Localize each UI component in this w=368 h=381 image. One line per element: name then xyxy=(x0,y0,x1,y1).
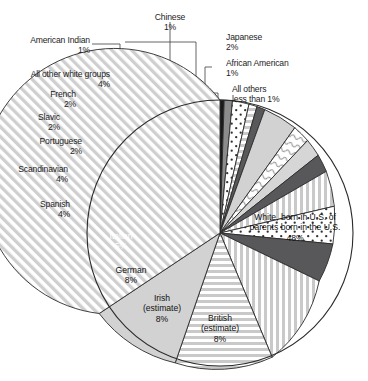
pie-chart-figure: Chinese 1% Japanese 2% African American … xyxy=(0,0,368,381)
callout-scandinavian-name: Scandinavian xyxy=(0,164,68,174)
inside-label-irish: Irish (estimate) 8% xyxy=(126,293,198,324)
callout-all-others-percent: less than 1% xyxy=(232,94,279,104)
inside-label-british-line2: (estimate) xyxy=(201,323,239,333)
callout-chinese-name: Chinese xyxy=(138,12,202,22)
inside-label-italian-name: Italian xyxy=(110,231,133,241)
inside-label-german-percent: 8% xyxy=(125,275,137,285)
inside-label-british-line1: British xyxy=(208,313,232,323)
callout-japanese: Japanese 2% xyxy=(226,32,262,52)
inside-label-british-percent: 8% xyxy=(214,334,226,344)
callout-spanish-name: Spanish xyxy=(0,199,70,209)
callout-african-american: African American 1% xyxy=(226,58,289,78)
callout-slavic-name: Slavic xyxy=(0,112,60,122)
callout-french: French 2% xyxy=(0,89,76,109)
callout-japanese-name: Japanese xyxy=(226,32,262,42)
inside-label-irish-percent: 8% xyxy=(156,314,168,324)
callout-spanish: Spanish 4% xyxy=(0,199,70,219)
inside-label-irish-line1: Irish xyxy=(154,293,170,303)
callout-portuguese-name: Portuguese xyxy=(0,136,82,146)
callout-american-indian: American Indian 1% xyxy=(0,35,90,55)
inside-label-white-native-line2: parents born in the U.S. xyxy=(250,222,341,232)
callout-all-other-white-groups-percent: 4% xyxy=(0,79,110,89)
callout-portuguese-percent: 2% xyxy=(0,146,82,156)
callout-slavic-percent: 2% xyxy=(0,122,60,132)
callout-african-american-percent: 1% xyxy=(226,68,289,78)
callout-all-others-name: All others xyxy=(232,84,279,94)
inside-label-italian-percent: 5% xyxy=(115,241,127,251)
callout-scandinavian-percent: 4% xyxy=(0,174,68,184)
callout-spanish-percent: 4% xyxy=(0,209,70,219)
callout-chinese-percent: 1% xyxy=(138,22,202,32)
callout-scandinavian: Scandinavian 4% xyxy=(0,164,68,184)
callout-slavic: Slavic 2% xyxy=(0,112,60,132)
callout-american-indian-percent: 1% xyxy=(0,45,90,55)
callout-french-name: French xyxy=(0,89,76,99)
callout-african-american-name: African American xyxy=(226,58,289,68)
callout-american-indian-name: American Indian xyxy=(0,35,90,45)
inside-label-italian: Italian 5% xyxy=(92,231,150,252)
inside-label-white-native: White, born in U.S. of parents born in t… xyxy=(231,212,359,243)
inside-label-german-name: German xyxy=(115,265,146,275)
callout-japanese-percent: 2% xyxy=(226,42,262,52)
callout-portuguese: Portuguese 2% xyxy=(0,136,82,156)
inside-label-irish-line2: (estimate) xyxy=(143,303,181,313)
inside-label-white-native-percent: 48% xyxy=(286,233,303,243)
callout-chinese: Chinese 1% xyxy=(138,12,202,32)
inside-label-white-native-line1: White, born in U.S. of xyxy=(254,212,336,222)
callout-all-other-white-groups-name: All other white groups xyxy=(0,69,110,79)
callout-french-percent: 2% xyxy=(0,99,76,109)
callout-all-others: All others less than 1% xyxy=(232,84,279,104)
inside-label-german: German 8% xyxy=(99,265,163,286)
callout-all-other-white-groups: All other white groups 4% xyxy=(0,69,110,89)
